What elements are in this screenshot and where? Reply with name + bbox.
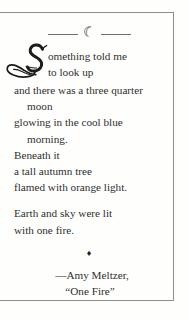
poem-line: a tall autumn tree (14, 163, 164, 179)
attribution: —Amy Meltzer, “One Fire” (14, 267, 164, 300)
attribution-title: “One Fire” (14, 283, 164, 300)
page-content: ☾ (0, 12, 174, 301)
dropcap-block: omething told me to look up (14, 48, 164, 82)
divider-rule-left (48, 34, 78, 35)
crescent-moon-icon: ☾ (81, 25, 97, 42)
poem-body: omething told me to look up and there wa… (14, 48, 164, 238)
poem-line: with one fire. (14, 222, 164, 238)
poem-line: glowing in the cool blue (14, 114, 164, 130)
dropcap-first-lines: omething told me to look up (14, 48, 164, 80)
poem-line: moon (14, 98, 164, 114)
poem-line: Beneath it (14, 147, 164, 163)
poem-line: and there was a three quarter (14, 82, 164, 98)
poem-line: omething told me (48, 48, 164, 64)
poem-line: flamed with orange light. (14, 179, 164, 195)
poem-line: Earth and sky were lit (14, 205, 164, 221)
diamond-ornament-icon: ♦ (14, 249, 164, 258)
poem-line: morning. (14, 131, 164, 147)
book-page: ☾ (0, 0, 189, 319)
stanza-2: Earth and sky were lit with one fire. (14, 205, 164, 237)
stanza-1: omething told me to look up and there wa… (14, 48, 164, 195)
poem-line: to look up (48, 64, 164, 80)
attribution-author: —Amy Meltzer, (14, 267, 164, 284)
moon-divider: ☾ (14, 26, 164, 42)
divider-rule-right (101, 34, 131, 35)
